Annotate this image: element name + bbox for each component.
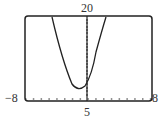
graph-window	[0, 0, 159, 118]
parabola-curve	[52, 17, 106, 89]
window-frame	[25, 16, 152, 101]
